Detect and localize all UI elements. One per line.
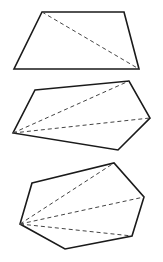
pentagon-diagonal-2 — [13, 118, 150, 133]
quadrilateral-diagonal — [42, 12, 139, 69]
hexagon-outline — [20, 163, 144, 249]
quadrilateral — [14, 12, 139, 69]
pentagon-outline — [13, 81, 150, 150]
quadrilateral-outline — [14, 12, 139, 69]
pentagon — [13, 81, 150, 150]
hexagon-diagonal-2 — [20, 197, 144, 224]
hexagon-diagonal-1 — [20, 163, 114, 224]
hexagon — [20, 163, 144, 249]
triangulation-figure — [0, 0, 163, 262]
pentagon-diagonal-1 — [13, 81, 129, 133]
